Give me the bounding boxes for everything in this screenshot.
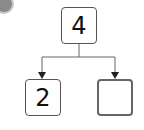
whole-value: 4 [71, 12, 86, 40]
part-left-value: 2 [35, 84, 50, 112]
part-box-right[interactable] [97, 79, 133, 116]
arrow-down-icon [38, 72, 46, 79]
arrow-down-icon [111, 72, 119, 79]
whole-box: 4 [61, 7, 97, 44]
part-box-left: 2 [25, 79, 61, 116]
